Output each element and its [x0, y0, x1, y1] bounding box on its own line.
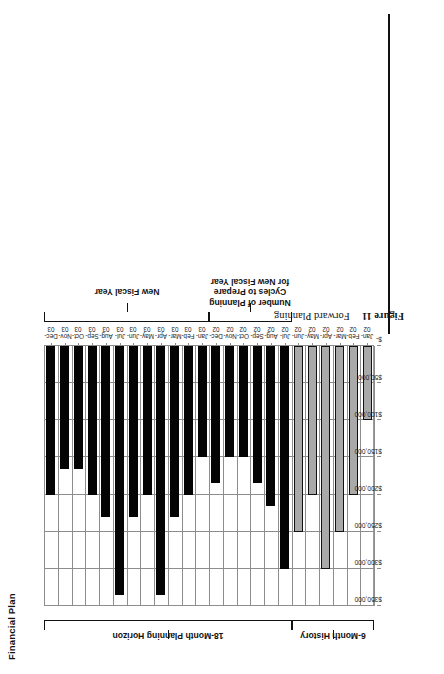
bracket-spine — [44, 321, 209, 322]
category-rowline — [140, 346, 141, 606]
landscape-figure: Financial Plan $350,000$300,000$250,000$… — [0, 0, 444, 674]
bar-Dec02 — [211, 346, 220, 483]
value-tick-150000: $150,000 — [354, 448, 382, 455]
category-tick-mark — [285, 343, 286, 346]
value-tick-mark — [377, 531, 381, 532]
category-rowline — [154, 346, 155, 606]
bar-Feb02 — [349, 346, 358, 495]
category-tick-mark — [120, 343, 121, 346]
bar-Feb03 — [184, 346, 193, 495]
category-rowline — [168, 346, 169, 606]
value-tick-mark — [377, 419, 381, 420]
bar-May02 — [308, 346, 317, 495]
category-rowline — [195, 346, 196, 606]
category-tick-mark — [78, 343, 79, 346]
category-rowline — [58, 346, 59, 606]
category-rowline — [85, 346, 86, 606]
bracket-planning-horizon — [44, 620, 292, 630]
bracket-label-six-month-history: 6-Month History — [300, 631, 365, 642]
category-rowline — [223, 346, 224, 606]
category-rowline — [72, 346, 73, 606]
bar-Aug02 — [266, 346, 275, 506]
bracket-stem — [127, 303, 128, 312]
value-tick-200000: $200,000 — [354, 485, 382, 492]
category-label-Jan-02: Jan-02 — [354, 326, 380, 340]
value-tick-350000: $350,000 — [354, 596, 382, 603]
category-tick-mark — [161, 343, 162, 346]
value-tick-300000: $300,000 — [354, 559, 382, 566]
category-rowline — [99, 346, 100, 606]
value-tick-100000: $100,000 — [354, 411, 382, 418]
category-rowline — [374, 346, 375, 606]
bar-Mar02 — [335, 346, 344, 532]
bar-chart-plot-area — [44, 346, 374, 606]
category-rowline — [44, 346, 45, 606]
category-tick-mark — [216, 343, 217, 346]
value-tick-50000: $50,000 — [358, 374, 382, 381]
category-tick-mark — [65, 343, 66, 346]
figure-caption-text: Forward Planning — [274, 311, 350, 322]
bar-Sep02 — [253, 346, 262, 483]
category-rowline — [250, 346, 251, 606]
category-tick-mark — [312, 343, 313, 346]
value-tick-mark — [377, 605, 381, 606]
bar-Jun02 — [294, 346, 303, 532]
bracket-spine — [292, 620, 375, 621]
category-tick-mark — [147, 343, 148, 346]
bar-Jul03 — [115, 346, 124, 595]
value-tick-mark — [377, 382, 381, 383]
category-rowline — [305, 346, 306, 606]
value-tick-mark — [377, 345, 381, 346]
category-rowline — [182, 346, 183, 606]
bracket-spine — [44, 620, 292, 621]
bar-Dec03 — [46, 346, 55, 495]
bracket-new-fiscal-year — [44, 312, 209, 322]
bracket-label-planning-cycles: Number of Planning Cycles to Prepare for… — [209, 276, 291, 308]
bar-Sep03 — [88, 346, 97, 495]
bar-Mar03 — [170, 346, 179, 517]
bracket-arm-bottom — [373, 621, 374, 630]
bar-Oct03 — [74, 346, 83, 469]
bar-Apr02 — [321, 346, 330, 569]
plot-inner — [44, 346, 374, 606]
category-rowline — [333, 346, 334, 606]
category-tick-mark — [92, 343, 93, 346]
figure-caption: Figure 11 Forward Planning — [274, 311, 404, 322]
category-rowline — [209, 346, 210, 606]
category-tick-mark — [230, 343, 231, 346]
category-tick-mark — [202, 343, 203, 346]
chart-title: Financial Plan — [6, 593, 17, 660]
bar-Nov02 — [225, 346, 234, 457]
category-tick-mark — [271, 343, 272, 346]
bracket-arm-top — [44, 312, 45, 321]
category-tick-mark — [257, 343, 258, 346]
category-rowline — [127, 346, 128, 606]
category-rowline — [237, 346, 238, 606]
category-tick-mark — [367, 343, 368, 346]
category-tick-mark — [51, 343, 52, 346]
value-tick-250000: $250,000 — [354, 522, 382, 529]
category-rowline — [319, 346, 320, 606]
bracket-label-new-fiscal-year: New Fiscal Year — [94, 287, 159, 298]
bar-Jan03 — [198, 346, 207, 457]
category-tick-mark — [353, 343, 354, 346]
category-tick-mark — [106, 343, 107, 346]
category-tick-mark — [133, 343, 134, 346]
bracket-arm-top — [292, 621, 293, 630]
bracket-arm-top — [209, 312, 210, 321]
bar-Aug03 — [101, 346, 110, 517]
bar-Apr03 — [156, 346, 165, 595]
category-tick-mark — [243, 343, 244, 346]
category-rowline — [292, 346, 293, 606]
value-tick-mark — [377, 494, 381, 495]
bracket-arm-top — [44, 621, 45, 630]
bar-May03 — [143, 346, 152, 495]
bracket-label-planning-horizon: 18-Month Planning Horizon — [112, 631, 223, 642]
value-tick-mark — [377, 568, 381, 569]
category-rowline — [360, 346, 361, 606]
bar-Jul02 — [280, 346, 289, 569]
category-rowline — [264, 346, 265, 606]
bar-Nov03 — [60, 346, 69, 469]
category-rowline — [347, 346, 348, 606]
category-tick-mark — [326, 343, 327, 346]
